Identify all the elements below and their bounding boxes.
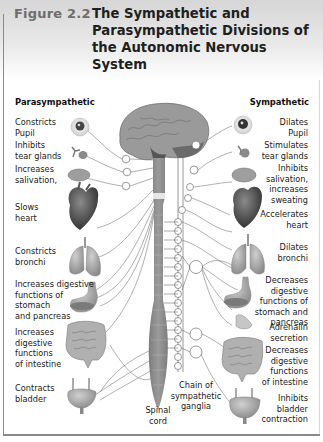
brain-icon xyxy=(120,103,209,162)
symp-label-bladder: Inhibits bladder contraction xyxy=(262,393,308,425)
symp-label-pupil: Dilates Pupil xyxy=(280,117,308,138)
lungs-icon-right xyxy=(232,234,265,274)
para-label-tear-glands: Inhibits tear glands xyxy=(15,140,61,161)
symp-label-stomach-pancreas: Decreases digestive functions of stomach… xyxy=(255,275,308,328)
bladder-icon-right xyxy=(230,388,260,424)
para-label-bronchi: Constricts bronchi xyxy=(15,246,56,267)
spinal-cord-label: Spinal cord xyxy=(138,405,178,426)
spinal-cord xyxy=(149,158,168,410)
lungs-icon-left xyxy=(70,237,101,276)
sympathetic-heading: Sympathetic xyxy=(250,97,309,107)
para-label-pupil: Constricts Pupil xyxy=(15,117,56,138)
adrenal-gland-icon-right xyxy=(236,315,252,329)
intestine-icon-right xyxy=(222,337,263,382)
tear-gland-icon-right xyxy=(238,146,250,158)
tear-gland-icon-left xyxy=(72,147,88,159)
heart-icon-right xyxy=(233,187,262,228)
intestine-icon-left xyxy=(66,321,106,368)
parasympathetic-heading: Parasympathetic xyxy=(15,97,95,107)
salivary-gland-icon-right xyxy=(232,168,256,182)
stomach-pancreas-icon-right xyxy=(224,277,251,308)
symp-label-adrenalin: Adrenalin secretion xyxy=(269,322,308,343)
symp-label-tear-glands: Stimulates tear glands xyxy=(262,140,308,161)
para-label-heart: Slows heart xyxy=(15,202,38,223)
heart-icon-left xyxy=(69,182,99,230)
sympathetic-chain xyxy=(175,141,203,372)
eye-icon-right xyxy=(234,116,252,134)
salivary-gland-icon-left xyxy=(68,169,90,181)
para-label-stomach-pancreas: Increases digestive functions of stomach… xyxy=(15,279,94,321)
symp-label-intestine: Decreases digestive functions of intesti… xyxy=(262,345,308,387)
para-label-bladder: Contracts bladder xyxy=(15,383,55,404)
symp-label-heart: Accelerates heart xyxy=(260,209,308,230)
para-label-intestine: Increases digestive functions of intesti… xyxy=(15,327,61,369)
symp-label-salivation-sweating: Inhibits salivation, increases sweating xyxy=(266,163,308,205)
para-label-salivation: Increases salivation, xyxy=(15,164,57,185)
bladder-icon-left xyxy=(68,378,96,414)
symp-label-bronchi: Dilates bronchi xyxy=(277,242,308,263)
parasympathetic-ganglia xyxy=(122,155,131,190)
eye-icon-left xyxy=(71,118,89,136)
